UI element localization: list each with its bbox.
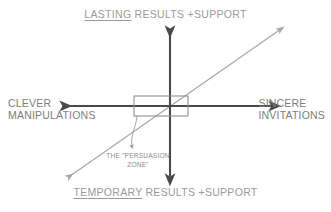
axis-label-right-line2: INVITATIONS — [258, 109, 325, 121]
axis-label-bottom: TEMPORARY RESULTS +SUPPORT — [73, 186, 257, 198]
axis-label-top-underlined: LASTING — [84, 8, 131, 20]
axis-label-right: SINCERE INVITATIONS — [258, 97, 325, 122]
axis-label-top-rest: RESULTS +SUPPORT — [131, 8, 246, 20]
persuasion-zone-annotation-line1: THE "PERSUASION — [102, 152, 174, 161]
axis-label-bottom-underlined: TEMPORARY — [73, 186, 142, 198]
axis-label-left-line2: MANIPULATIONS — [8, 109, 96, 121]
axis-label-top: LASTING RESULTS +SUPPORT — [84, 8, 246, 20]
axis-label-left-line1: CLEVER — [8, 97, 96, 109]
persuasion-zone-annotation: THE "PERSUASION ZONE" — [102, 152, 174, 169]
axis-label-left: CLEVER MANIPULATIONS — [8, 97, 96, 122]
diagram-canvas: LASTING RESULTS +SUPPORT TEMPORARY RESUL… — [0, 0, 331, 212]
axis-label-right-line1: SINCERE — [258, 97, 325, 109]
persuasion-zone-annotation-line2: ZONE" — [102, 161, 174, 170]
axis-label-bottom-rest: RESULTS +SUPPORT — [142, 186, 257, 198]
